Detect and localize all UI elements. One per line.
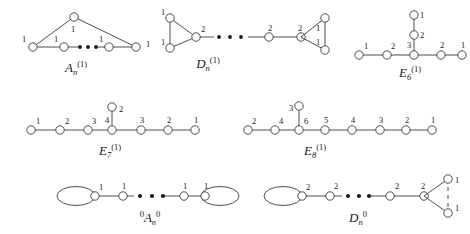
node-chain-left [192, 33, 200, 41]
node-h-5 [348, 126, 356, 134]
ellipsis-dot-1 [217, 35, 221, 39]
diagram-name-A-n-zero: 0An0 [140, 209, 161, 227]
node-h-3 [84, 126, 92, 134]
diagram-name-E7-affine: E7(1) [98, 142, 121, 160]
ellipsis-dot-3 [94, 45, 98, 49]
ellipsis-dot-2 [86, 45, 90, 49]
node-chain-2 [119, 192, 127, 200]
mark-chain-4: 1 [204, 181, 208, 191]
mark-rightfork-bottom: 1 [316, 37, 320, 47]
node-h-7 [191, 126, 199, 134]
mark-v-1: 2 [420, 30, 424, 40]
ellipsis-dot-1 [138, 194, 142, 198]
loop-left [57, 187, 95, 206]
node-v-1 [108, 103, 116, 111]
diagram-name-E8-affine: E8(1) [303, 142, 326, 160]
node-fork-bottom [444, 209, 452, 217]
mark-chain-3: 1 [99, 34, 103, 44]
mark-leftfork-bottom: 1 [161, 37, 165, 47]
ellipsis-dot-2 [228, 35, 232, 39]
diagram-name-D-n-zero: Dn0 [348, 209, 367, 227]
node-leftfork-top [166, 14, 174, 22]
mark-h-4: 2 [440, 40, 444, 50]
node-h-6 [164, 126, 172, 134]
dynkin-diagram-figure: 1 1 1 1 1 An(1) 1 [0, 0, 470, 234]
mark-fork-bottom: 1 [455, 203, 459, 213]
ellipsis-dot-1 [78, 45, 82, 49]
diagram-name-A-n-affine: An(1) [64, 59, 87, 77]
mark-v-2: 1 [420, 10, 424, 20]
mark-fork-center: 2 [421, 181, 425, 191]
node-chain-3 [180, 192, 188, 200]
mark-h-2: 2 [391, 41, 395, 51]
node-fork-top [444, 175, 452, 183]
ellipsis-dot-3 [239, 35, 243, 39]
node-apex [70, 13, 78, 21]
diagram-A-n-affine: 1 1 1 1 1 An(1) [22, 13, 150, 77]
mark-h-5: 1 [461, 40, 465, 50]
node-leftfork-bottom [166, 44, 174, 52]
ellipsis-dot-2 [150, 194, 154, 198]
edge-leftfork-top [170, 18, 196, 37]
diagram-E8-affine: 2 4 6 5 4 3 2 1 3 E8(1) [244, 102, 436, 160]
mark-h-2: 4 [279, 116, 284, 126]
node-chain-3 [105, 43, 113, 51]
node-chain-1 [298, 192, 306, 200]
mark-rightfork-center: 2 [298, 23, 302, 33]
mark-chain-1: 2 [306, 182, 310, 192]
diagram-canvas: 1 1 1 1 1 An(1) 1 [0, 0, 470, 234]
node-h-3 [295, 126, 303, 134]
mark-h-5: 4 [351, 115, 356, 125]
edge-apex-right [74, 17, 136, 47]
mark-h-3: 3 [407, 40, 411, 50]
mark-h-1: 1 [36, 116, 40, 126]
node-chain-4 [201, 192, 209, 200]
node-h-2 [383, 51, 391, 59]
mark-chain-3: 1 [183, 181, 187, 191]
diagram-E6-affine: 1 2 3 2 1 2 1 E6(1) [355, 10, 466, 82]
node-chain-3 [386, 192, 394, 200]
node-rightfork-bottom [321, 46, 329, 54]
node-chain-4 [132, 43, 140, 51]
ellipsis-dot-3 [161, 194, 165, 198]
mark-h-6: 3 [379, 115, 383, 125]
ellipsis-dot-2 [357, 194, 361, 198]
mark-h-1: 2 [252, 116, 256, 126]
node-h-2 [56, 126, 64, 134]
mark-chain-2: 1 [122, 181, 126, 191]
mark-chain-3: 2 [395, 181, 399, 191]
mark-h-1: 1 [364, 41, 368, 51]
mark-chain-1: 1 [99, 182, 103, 192]
mark-v-1: 2 [119, 104, 123, 114]
diagram-D-n-affine: 1 1 2 2 2 1 1 Dn(1) [161, 7, 329, 73]
mark-h-8: 1 [431, 115, 435, 125]
node-h-6 [376, 126, 384, 134]
node-h-1 [355, 51, 363, 59]
diagram-A-n-zero: 1 1 1 1 0An0 [57, 181, 239, 227]
mark-chain-4: 1 [146, 39, 150, 49]
node-rightfork-top [321, 14, 329, 22]
ellipsis-dot-3 [367, 194, 371, 198]
mark-h-3: 6 [304, 116, 308, 126]
mark-chain-mid: 2 [268, 23, 272, 33]
diagram-name-E6-affine: E6(1) [398, 64, 421, 82]
node-v-1 [410, 31, 418, 39]
mark-chain-2: 2 [334, 181, 338, 191]
diagram-E7-affine: 1 2 3 4 3 2 1 2 E7(1) [27, 103, 199, 160]
node-h-1 [244, 126, 252, 134]
diagram-D-n-zero: 2 2 2 2 1 1 Dn0 [264, 175, 459, 227]
mark-chain-2: 1 [54, 34, 58, 44]
mark-h-7: 1 [194, 115, 198, 125]
node-h-3 [410, 51, 418, 59]
mark-h-2: 2 [65, 116, 69, 126]
node-v-1 [295, 102, 303, 110]
node-chain-2 [326, 192, 334, 200]
loop-left [264, 187, 302, 206]
mark-fork-top: 1 [455, 175, 459, 185]
mark-h-3: 3 [92, 116, 96, 126]
node-chain-mid [265, 33, 273, 41]
node-h-4 [437, 51, 445, 59]
node-h-5 [458, 51, 466, 59]
node-h-1 [27, 126, 35, 134]
mark-apex: 1 [71, 24, 75, 34]
